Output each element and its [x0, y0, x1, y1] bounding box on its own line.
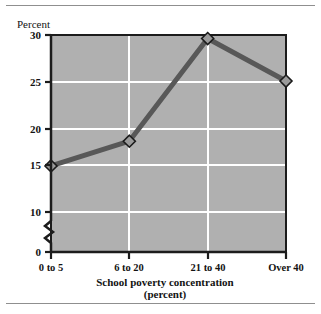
x-tick-label-6to20: 6 to 20 [114, 262, 144, 273]
chart-figure: Percent 30 25 20 15 10 0 0 to 5 6 to 20 … [0, 0, 321, 314]
x-axis-title-line1: School poverty concentration [96, 276, 233, 288]
y-tick-label-0: 0 [36, 246, 42, 258]
y-tick-label-20: 20 [30, 123, 42, 135]
x-tick-label-21to40: 21 to 40 [191, 262, 226, 273]
plot-background [51, 35, 286, 252]
y-tick-label-10: 10 [30, 206, 42, 218]
y-tick-label-30: 30 [30, 29, 42, 41]
y-tick-label-15: 15 [30, 159, 42, 171]
line-chart-plot: Percent 30 25 20 15 10 0 0 to 5 6 to 20 … [0, 0, 321, 314]
x-axis-title-line2: (percent) [144, 288, 187, 301]
x-tick-label-0to5: 0 to 5 [39, 262, 64, 273]
x-tick-label-over40: Over 40 [268, 262, 304, 273]
y-tick-label-25: 25 [30, 76, 42, 88]
